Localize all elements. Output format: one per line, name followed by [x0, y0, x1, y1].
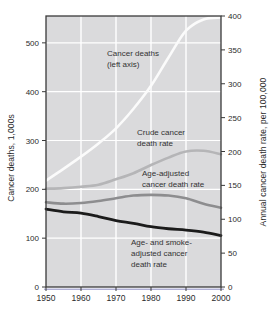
right-axis-title: Annual cancer death rate, per 100,000	[258, 78, 268, 227]
right-tick-label: 350	[228, 46, 242, 55]
cancer-deaths-label: Cancer deaths(left axis)	[107, 48, 159, 70]
x-tick-label: 2000	[212, 293, 231, 303]
left-tick-label: 100	[26, 234, 40, 243]
left-axis-title: Cancer deaths, 1,000s	[6, 114, 16, 202]
x-tick-label: 1990	[177, 293, 196, 303]
right-tick-label: 300	[228, 80, 242, 89]
x-tick-label: 1970	[107, 293, 126, 303]
left-tick-label: 0	[35, 283, 40, 292]
right-tick-label: 250	[228, 114, 242, 123]
left-tick-label: 400	[26, 88, 40, 97]
left-tick-label: 300	[26, 137, 40, 146]
x-tick-label: 1980	[142, 293, 161, 303]
age-adjusted-label: Age-adjustedcancer death rate	[142, 168, 204, 190]
right-tick-label: 150	[228, 181, 242, 190]
age-smoke-adjusted-label: Age- and smoke-adjusted cancerdeath rate	[131, 237, 192, 270]
right-tick-label: 400	[228, 12, 242, 21]
x-tick-label: 1950	[37, 293, 56, 303]
cancer-death-rate-chart: 0100200300400500050100150200250300350400…	[0, 0, 270, 322]
x-tick-label: 1960	[72, 293, 91, 303]
left-tick-label: 200	[26, 185, 40, 194]
right-tick-label: 100	[228, 215, 242, 224]
left-tick-label: 500	[26, 39, 40, 48]
right-tick-label: 200	[228, 148, 242, 157]
crude-rate-label: Crude cancerdeath rate	[137, 127, 185, 149]
right-tick-label: 50	[228, 249, 237, 258]
right-tick-label: 0	[228, 283, 233, 292]
